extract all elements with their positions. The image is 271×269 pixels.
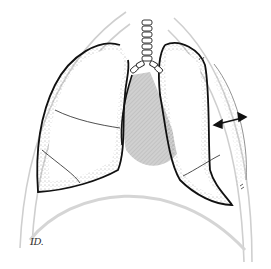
trachea	[130, 20, 164, 74]
artist-signature: ID.	[30, 236, 43, 247]
chest-illustration	[0, 0, 271, 269]
diaphragm	[30, 196, 245, 250]
right-lung	[37, 43, 128, 192]
